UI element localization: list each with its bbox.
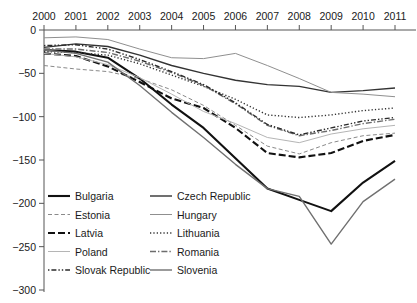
line-chart: 0−50−100−150−200−250−300 200020012002200… — [0, 0, 417, 303]
y-tick-label: −300 — [12, 284, 36, 296]
y-tick-label: −150 — [12, 154, 36, 166]
legend-label-slovenia: Slovenia — [177, 264, 217, 276]
series-line-bulgaria — [44, 50, 395, 211]
y-tick-label: −100 — [12, 111, 36, 123]
x-tick-label: 2011 — [384, 10, 407, 22]
x-tick-label: 2010 — [351, 10, 375, 22]
x-axis-ticks: 2000200120022003200420052006200720082009… — [32, 10, 406, 30]
x-tick-label: 2007 — [256, 10, 280, 22]
y-tick-label: −250 — [12, 241, 36, 253]
x-tick-label: 2008 — [288, 10, 312, 22]
x-tick-label: 2000 — [32, 10, 56, 22]
legend-label-bulgaria: Bulgaria — [75, 190, 114, 202]
y-axis-ticks: 0−50−100−150−200−250−300 — [12, 24, 44, 296]
series-line-poland — [44, 53, 395, 142]
y-tick-label: −200 — [12, 197, 36, 209]
y-tick-label: 0 — [30, 24, 36, 36]
y-tick-label: −50 — [18, 67, 36, 79]
series-line-czech-republic — [44, 44, 395, 93]
legend-label-lithuania: Lithuania — [177, 227, 220, 239]
x-tick-label: 2002 — [96, 10, 120, 22]
x-tick-label: 2009 — [320, 10, 344, 22]
legend-label-latvia: Latvia — [75, 227, 103, 239]
legend-label-czech-republic: Czech Republic — [177, 190, 251, 202]
series-line-estonia — [44, 66, 395, 154]
legend-label-estonia: Estonia — [75, 209, 110, 221]
series-line-slovak-republic — [44, 45, 395, 135]
x-tick-label: 2004 — [160, 10, 184, 22]
chart-container: 0−50−100−150−200−250−300 200020012002200… — [0, 0, 417, 303]
x-tick-label: 2003 — [128, 10, 152, 22]
legend-label-slovak-republic: Slovak Republic — [75, 264, 150, 276]
x-tick-label: 2006 — [224, 10, 248, 22]
legend-label-poland: Poland — [75, 246, 108, 258]
x-tick-label: 2001 — [64, 10, 88, 22]
legend-label-romania: Romania — [177, 246, 219, 258]
x-tick-label: 2005 — [192, 10, 216, 22]
chart-legend: BulgariaCzech RepublicEstoniaHungaryLatv… — [48, 190, 251, 276]
legend-label-hungary: Hungary — [177, 209, 217, 221]
